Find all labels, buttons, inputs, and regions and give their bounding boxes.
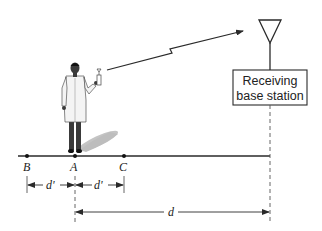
base-station-antenna-icon (259, 20, 281, 70)
dimension-label-d-prime-right: d' (94, 178, 103, 192)
point-a-label: A (69, 160, 78, 174)
point-a-marker (73, 154, 77, 158)
point-c-label: C (119, 160, 128, 174)
diagram-canvas: B A C d' d' d Receiving base station (0, 0, 322, 231)
point-b-label: B (23, 160, 31, 174)
base-station-label-line2: base station (236, 89, 303, 103)
point-c-marker (122, 154, 126, 158)
base-station-box: Receiving base station (233, 70, 307, 105)
dimension-label-d: d (168, 205, 175, 219)
point-b-marker (25, 154, 29, 158)
person-with-transmitter-icon (62, 63, 120, 155)
radio-signal-arrow (107, 31, 243, 70)
dimension-label-d-prime-left: d' (46, 178, 55, 192)
base-station-label-line1: Receiving (243, 74, 298, 88)
